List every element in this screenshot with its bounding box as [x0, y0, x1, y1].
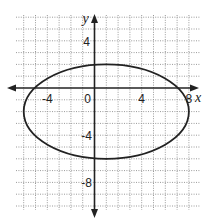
y-tick-label: 4 [83, 35, 90, 49]
x-tick-label: 0 [84, 92, 91, 106]
x-tick-label: -4 [42, 92, 53, 106]
y-axis-label: y [81, 11, 90, 26]
y-tick-label: -4 [81, 129, 92, 143]
x-axis-left-arrow-icon [7, 85, 16, 92]
grid [16, 15, 200, 210]
x-axis-label: x [194, 90, 202, 105]
y-tick-label: -8 [81, 176, 92, 190]
x-tick-label: 4 [138, 92, 145, 106]
x-tick-label: 8 [186, 92, 193, 106]
y-axis-down-arrow-icon [91, 209, 98, 218]
ellipse-graph: -40484-4-8 x y [0, 0, 210, 222]
tick-labels: -40484-4-8 [42, 35, 193, 191]
y-axis-up-arrow-icon [91, 14, 98, 23]
